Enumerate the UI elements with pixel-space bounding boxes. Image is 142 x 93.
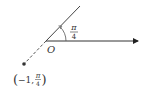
point-label-theta-den: 4 bbox=[36, 80, 40, 87]
point-label: ( −1, π 4 ) bbox=[13, 72, 47, 87]
origin-label: O bbox=[47, 44, 55, 55]
angle-numerator: π bbox=[70, 23, 77, 32]
point-label-close-paren: ) bbox=[42, 72, 47, 87]
dashed-extension bbox=[24, 41, 46, 64]
point-dot bbox=[22, 62, 26, 66]
point-label-r: −1, bbox=[18, 75, 34, 85]
angle-denominator: 4 bbox=[72, 33, 77, 41]
angle-label: π 4 bbox=[70, 23, 78, 41]
polar-diagram: π 4 O ( −1, π 4 ) bbox=[0, 0, 142, 93]
point-label-theta-num: π bbox=[35, 72, 41, 80]
angle-arc bbox=[60, 27, 66, 41]
